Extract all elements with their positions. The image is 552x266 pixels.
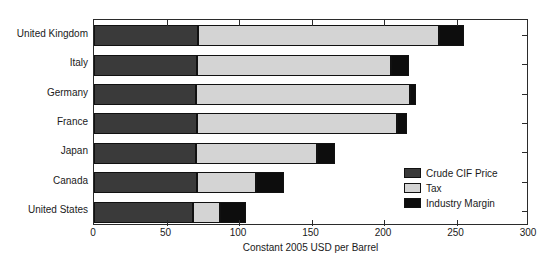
bar-segment-tax — [198, 25, 439, 46]
bar-row — [94, 113, 527, 134]
y-tick-label: United States — [0, 204, 88, 216]
bar-segment-tax — [197, 55, 391, 76]
bar-segment-crude-cif-price — [94, 202, 193, 223]
legend-swatch — [404, 168, 421, 178]
bar-segment-industry-margin — [397, 113, 407, 134]
bar-segment-crude-cif-price — [94, 55, 197, 76]
chart-figure: United KingdomItalyGermanyFranceJapanCan… — [0, 0, 552, 266]
bar-segment-industry-margin — [410, 84, 416, 105]
bar-segment-industry-margin — [220, 202, 246, 223]
bar-segment-industry-margin — [391, 55, 408, 76]
x-tick-label: 50 — [160, 227, 171, 239]
x-tick-mark — [239, 20, 240, 26]
x-tick-mark — [384, 20, 385, 26]
y-tick-label: United Kingdom — [0, 28, 88, 40]
x-tick-label: 100 — [230, 227, 247, 239]
y-tick-mark — [522, 94, 527, 95]
bar-segment-tax — [197, 113, 397, 134]
y-tick-mark — [522, 123, 527, 124]
legend-swatch — [404, 198, 421, 208]
x-tick-label: 150 — [302, 227, 319, 239]
bar-segment-industry-margin — [256, 172, 284, 193]
x-tick-label: 250 — [447, 227, 464, 239]
y-tick-mark — [522, 64, 527, 65]
x-tick-label: 300 — [520, 227, 537, 239]
chart-legend: Crude CIF PriceTaxIndustry Margin — [404, 167, 524, 212]
y-tick-label: Italy — [0, 57, 88, 69]
bar-row — [94, 55, 527, 76]
bar-segment-industry-margin — [439, 25, 464, 46]
x-axis-tick-labels: 050100150200250300 — [0, 227, 552, 241]
bar-row — [94, 84, 527, 105]
x-tick-mark — [457, 20, 458, 26]
bar-row — [94, 25, 527, 46]
y-tick-mark — [522, 152, 527, 153]
x-axis-title: Constant 2005 USD per Barrel — [93, 242, 528, 254]
x-tick-mark — [167, 220, 168, 226]
x-tick-mark — [457, 220, 458, 226]
y-tick-label: Canada — [0, 175, 88, 187]
x-tick-mark — [312, 220, 313, 226]
bar-segment-crude-cif-price — [94, 84, 196, 105]
bar-segment-crude-cif-price — [94, 172, 197, 193]
y-axis-tick-labels: United KingdomItalyGermanyFranceJapanCan… — [0, 19, 88, 225]
bar-segment-crude-cif-price — [94, 25, 198, 46]
x-tick-mark — [312, 20, 313, 26]
y-tick-label: Germany — [0, 87, 88, 99]
bar-segment-tax — [196, 143, 318, 164]
bar-segment-tax — [193, 202, 221, 223]
legend-label: Industry Margin — [426, 197, 495, 210]
bar-segment-tax — [196, 84, 411, 105]
x-tick-mark — [167, 20, 168, 26]
legend-swatch — [404, 183, 421, 193]
bar-segment-tax — [197, 172, 256, 193]
legend-label: Tax — [426, 182, 442, 195]
y-tick-label: France — [0, 116, 88, 128]
bar-segment-crude-cif-price — [94, 143, 196, 164]
x-tick-mark — [239, 220, 240, 226]
x-tick-label: 0 — [90, 227, 96, 239]
bar-segment-industry-margin — [317, 143, 334, 164]
x-tick-mark — [384, 220, 385, 226]
legend-label: Crude CIF Price — [426, 167, 498, 180]
bar-segment-crude-cif-price — [94, 113, 197, 134]
bar-row — [94, 143, 527, 164]
y-tick-label: Japan — [0, 145, 88, 157]
x-tick-label: 200 — [375, 227, 392, 239]
y-tick-mark — [522, 35, 527, 36]
